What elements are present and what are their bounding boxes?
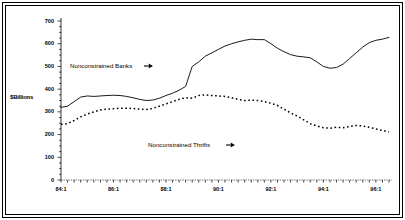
chart-plot-area bbox=[0, 0, 405, 220]
series-line-thrifts bbox=[61, 95, 389, 132]
chart-axes bbox=[58, 18, 393, 183]
annotation-nonconstrained-banks: Nonconstrained Banks bbox=[70, 62, 132, 69]
arrow-icon-thrifts bbox=[226, 143, 235, 148]
annotation-arrows bbox=[144, 64, 235, 148]
chart-figure: $Billions 0100200300400500600700 84:186:… bbox=[0, 0, 405, 220]
chart-series bbox=[61, 37, 389, 131]
arrow-icon-banks bbox=[144, 64, 153, 69]
annotation-nonconstrained-thrifts: Nonconstrained Thrifts bbox=[148, 141, 210, 148]
